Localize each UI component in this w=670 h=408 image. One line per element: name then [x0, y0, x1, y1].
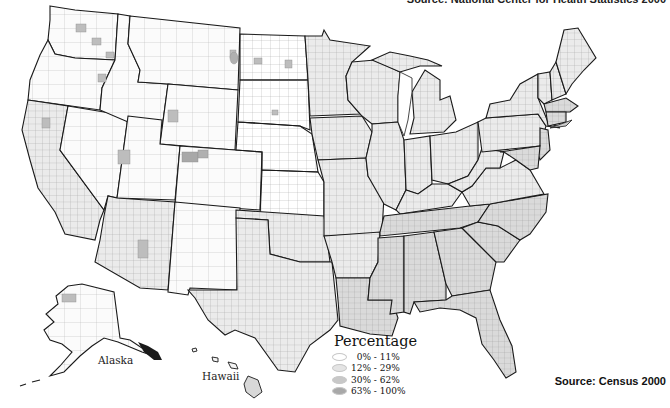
legend-swatch-icon	[332, 353, 347, 361]
state-montana	[128, 16, 240, 90]
alaska-label: Alaska	[98, 354, 133, 366]
bottom-source-text: Source: Census 2000	[555, 375, 666, 387]
legend-swatch-icon	[332, 376, 347, 384]
northeast-region	[478, 28, 596, 170]
state-north-dakota	[240, 34, 308, 80]
state-new-mexico	[168, 202, 240, 295]
state-indiana	[404, 136, 432, 194]
legend-label: 63% - 100%	[351, 386, 406, 396]
legend-item: 30% - 62%	[332, 374, 442, 386]
hawaii-oahu	[212, 357, 218, 362]
hawaii-big-island	[244, 376, 262, 398]
state-michigan-lower	[410, 70, 456, 134]
alaska	[20, 284, 162, 386]
hawaii-label: Hawaii	[202, 370, 239, 382]
legend-label: 30% - 62%	[351, 375, 400, 385]
legend-item: 0% - 11%	[332, 351, 442, 363]
state-kansas	[260, 170, 324, 218]
legend-label: 12% - 29%	[351, 363, 400, 373]
legend-title: Percentage	[334, 333, 442, 349]
hawaii-maui	[228, 362, 238, 369]
legend-item: 12% - 29%	[332, 363, 442, 375]
lake-michigan	[398, 72, 412, 136]
legend-swatch-icon	[332, 387, 347, 395]
state-arizona	[95, 196, 175, 290]
hawaii-kauai	[192, 348, 197, 352]
legend: Percentage 0% - 11% 12% - 29% 30% - 62% …	[332, 333, 442, 397]
alaska-aleutians	[20, 380, 40, 386]
legend-label: 0% - 11%	[351, 352, 400, 362]
legend-item: 63% - 100%	[332, 386, 442, 398]
state-iowa	[310, 116, 372, 160]
legend-swatch-icon	[332, 364, 347, 372]
